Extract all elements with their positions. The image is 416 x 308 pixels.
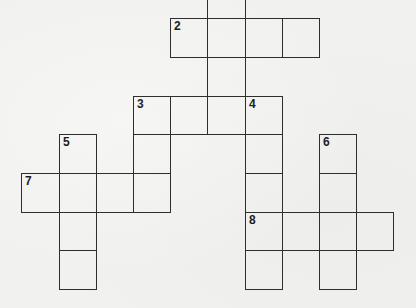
crossword-cell[interactable] [245,250,283,290]
crossword-cell[interactable] [207,18,246,58]
crossword-cell[interactable] [356,212,394,251]
crossword-cell[interactable] [282,212,320,251]
crossword-cell[interactable] [319,212,357,251]
crossword-cell-4[interactable]: 4 [245,96,283,135]
crossword-cell[interactable] [282,18,320,58]
crossword-cell[interactable] [207,57,246,97]
crossword-cell[interactable] [133,173,171,213]
crossword-cell-7[interactable]: 7 [21,173,60,213]
clue-number: 5 [63,136,70,149]
clue-number: 7 [25,175,32,188]
crossword-cell-5[interactable]: 5 [59,134,97,174]
crossword-cell[interactable] [170,96,208,135]
crossword-cell[interactable] [59,250,97,290]
crossword-cell[interactable] [133,134,171,174]
crossword-cell-6[interactable]: 6 [319,134,357,174]
worksheet-page: 2345678 [0,0,416,308]
crossword-cell[interactable] [207,0,246,19]
crossword-cell[interactable] [245,18,283,58]
crossword-cell[interactable] [59,212,97,251]
crossword-grid: 2345678 [0,0,416,308]
clue-number: 6 [323,136,330,149]
clue-number: 2 [174,20,181,33]
crossword-cell[interactable] [245,173,283,213]
crossword-cell[interactable] [319,173,357,213]
clue-number: 3 [137,98,144,111]
crossword-cell-8[interactable]: 8 [245,212,283,251]
crossword-cell[interactable] [319,250,357,290]
crossword-cell[interactable] [96,173,134,213]
crossword-cell-2[interactable]: 2 [170,18,208,58]
crossword-cell[interactable] [245,134,283,174]
crossword-cell[interactable] [59,173,97,213]
clue-number: 8 [249,214,256,227]
crossword-cell-3[interactable]: 3 [133,96,171,135]
clue-number: 4 [249,98,256,111]
crossword-cell[interactable] [207,96,246,135]
